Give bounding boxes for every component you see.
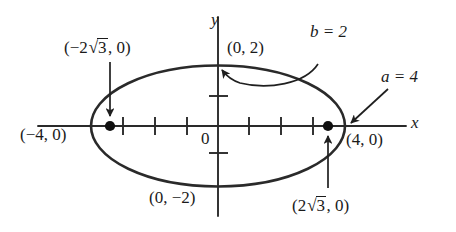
origin-label: 0 [201,130,210,147]
semi-minor-parameter-label: b = 2 [310,23,347,40]
semi-major-parameter-label: a = 4 [381,68,418,85]
a-parameter-arrow [351,89,388,123]
ellipse-figure: y x 0 (−4, 0) (4, 0) (0, 2) (0, −2) (−2√… [0,0,456,232]
left-focus-label: (−2√3, 0) [64,38,131,57]
right-focus-prefix: (2 [292,196,306,215]
y-axis-label: y [211,11,219,28]
figure-graphics [0,0,456,232]
right-focus-label: (2√3, 0) [292,196,349,215]
left-focus-radical: √3 [88,38,108,57]
radicand: 3 [316,196,327,215]
radicand: 3 [97,38,108,57]
left-focus-prefix: (−2 [64,38,88,57]
right-focus-dot [323,121,333,131]
x-axis-label: x [411,114,419,131]
bottom-covertex-label: (0, −2) [149,189,195,206]
top-covertex-label: (0, 2) [227,39,264,56]
left-vertex-label: (−4, 0) [20,126,66,143]
left-focus-dot [105,121,115,131]
right-vertex-label: (4, 0) [346,131,383,148]
left-focus-suffix: , 0) [108,38,131,57]
right-focus-radical: √3 [306,196,326,215]
right-focus-suffix: , 0) [326,196,349,215]
